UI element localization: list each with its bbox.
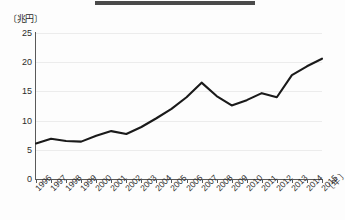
chart-figure: 〔兆円〕 0510152025 199619971998199920002001… <box>0 0 345 220</box>
data-line-series <box>36 33 322 179</box>
